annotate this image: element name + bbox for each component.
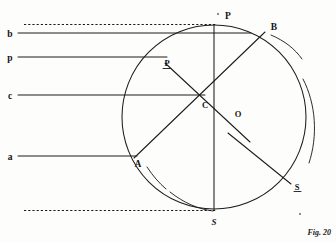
label-point-A: A (135, 159, 142, 169)
label-ray-p: p (7, 53, 12, 63)
outer-arc-right (303, 79, 315, 163)
figure-container: b p c a P P B C O A S S Fig. 20 (0, 0, 336, 243)
label-ray-c: c (8, 91, 12, 101)
optics-figure-diagram: b p c a P P B C O A S S Fig. 20 (0, 0, 336, 243)
ink-speck-top (217, 13, 219, 15)
label-point-O: O (235, 109, 242, 119)
label-point-S: S (211, 217, 216, 227)
label-ray-b: b (7, 29, 12, 39)
label-point-P-prime: P (164, 58, 169, 68)
label-ray-a: a (8, 152, 13, 162)
line-O-to-Sprime (228, 133, 291, 184)
ink-speck-bottom (299, 213, 301, 215)
label-point-B: B (271, 22, 278, 32)
outer-arc-lower-left (147, 167, 166, 189)
label-point-C: C (202, 100, 208, 110)
outer-arc-upper-right (271, 35, 302, 59)
label-point-S-prime: S (295, 182, 300, 192)
label-point-P: P (225, 11, 231, 21)
figure-caption: Fig. 20 (306, 228, 331, 237)
